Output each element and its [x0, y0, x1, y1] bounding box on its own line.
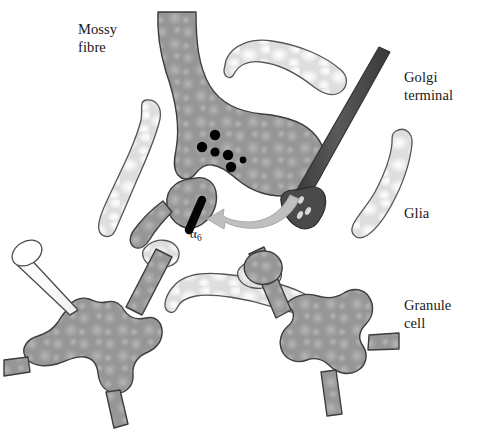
- granule-cell-right-process: [368, 333, 399, 350]
- label-granule-cell: Granule cell: [404, 296, 451, 332]
- label-golgi-terminal: Golgi terminal: [404, 68, 453, 104]
- vesicle: [197, 142, 207, 152]
- figure-root: Mossy fibre Golgi terminal Glia Granule …: [0, 0, 478, 438]
- alpha-symbol: α: [190, 226, 197, 241]
- vesicle: [210, 147, 219, 156]
- granule-cell-right-terminal: [244, 251, 282, 284]
- vesicle: [240, 157, 247, 164]
- vesicle: [210, 130, 220, 140]
- vesicle: [226, 162, 236, 172]
- granule-cell-left-process: [4, 357, 30, 376]
- granule-cell-right-body: [280, 290, 372, 374]
- label-glia: Glia: [404, 204, 429, 222]
- alpha-subscript: 6: [197, 233, 202, 243]
- vesicle: [223, 150, 233, 160]
- label-alpha6-receptor: α6: [190, 226, 202, 245]
- label-mossy-fibre: Mossy fibre: [78, 20, 117, 56]
